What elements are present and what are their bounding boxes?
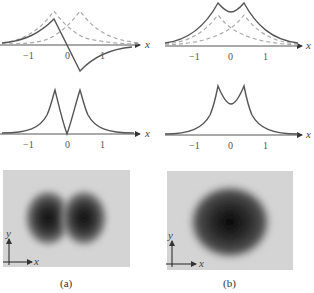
tick-1: 1: [100, 139, 105, 150]
tick-0: 0: [228, 51, 233, 62]
y-axis-label: y: [5, 227, 11, 239]
caption-b: (b): [223, 277, 236, 290]
tick-neg1: −1: [23, 139, 34, 150]
figure: −1 0 1 x −1 0 1 x −1 0 1 x −1 0 1 x: [0, 0, 314, 293]
image-b-density-map: y x: [166, 171, 293, 270]
solid-wavefunction-curve: [165, 3, 298, 43]
plot-b-density: −1 0 1 x: [165, 86, 311, 151]
tick-0: 0: [65, 139, 70, 150]
caption-a: (a): [60, 277, 73, 290]
right-lobe: [60, 189, 108, 247]
plot-b-wavefunction: −1 0 1 x: [165, 3, 311, 62]
central-blob: [187, 183, 273, 261]
tick-0: 0: [65, 50, 70, 61]
tick-1: 1: [263, 51, 268, 62]
x-axis-label: x: [305, 128, 311, 140]
x-axis-label: x: [144, 127, 150, 139]
image-a-density-map: y x: [3, 170, 130, 267]
tick-1: 1: [100, 50, 105, 61]
density-curve: [165, 86, 298, 134]
dashed-left-well-curve: [165, 15, 298, 45]
plot-a-wavefunction: −1 0 1 x: [0, 11, 150, 71]
x-axis-label: x: [305, 39, 311, 51]
tick-1: 1: [263, 140, 268, 151]
tick-neg1: −1: [189, 140, 200, 151]
tick-neg1: −1: [189, 51, 200, 62]
y-axis-label: y: [167, 229, 173, 241]
plot-a-density: −1 0 1 x: [0, 90, 150, 150]
density-curve: [2, 90, 134, 134]
x-axis-label: x: [33, 255, 39, 267]
x-axis-label: x: [144, 38, 150, 50]
tick-0: 0: [228, 140, 233, 151]
x-axis-label: x: [198, 257, 204, 269]
tick-neg1: −1: [23, 50, 34, 61]
dashed-right-well-curve: [165, 15, 298, 45]
